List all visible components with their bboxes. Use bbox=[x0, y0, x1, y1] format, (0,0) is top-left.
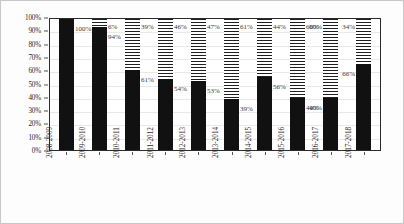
x-tick-column: 2011-2012 bbox=[158, 152, 173, 224]
bar-segment-hatched: 6% bbox=[92, 19, 107, 27]
bar-column: 61%39% bbox=[224, 19, 239, 150]
y-tick-label: 10% bbox=[28, 134, 41, 142]
x-tick-column: 2010-2011 bbox=[124, 152, 139, 224]
bar-segment-hatched: 60% bbox=[323, 19, 338, 98]
y-tick-label: 80% bbox=[28, 41, 41, 49]
y-tick-label: 100% bbox=[25, 14, 41, 22]
x-tick-column: 2017-2018 bbox=[357, 152, 372, 224]
y-tick-label: 70% bbox=[28, 54, 41, 62]
bar-value-label: 94% bbox=[108, 33, 121, 41]
x-tick-column: 2015-2016 bbox=[290, 152, 305, 224]
bar-segment-hatched: 60% bbox=[290, 19, 305, 98]
bar-value-label: 54% bbox=[174, 85, 187, 93]
bar-value-label: 66% bbox=[342, 70, 355, 78]
x-tick-column: 2013-2014 bbox=[224, 152, 239, 224]
x-tick-mark bbox=[165, 152, 166, 155]
bar-column: 60%40% bbox=[323, 19, 338, 150]
x-tick-column: 2016-2017 bbox=[324, 152, 339, 224]
bar-column: 44%56% bbox=[257, 19, 272, 150]
bar-value-label: 100% bbox=[75, 25, 91, 33]
y-tick-mark bbox=[44, 84, 48, 85]
y-tick-mark bbox=[44, 71, 48, 72]
x-tick-mark bbox=[265, 152, 266, 155]
x-tick-column: 2009-2010 bbox=[91, 152, 106, 224]
y-tick-mark bbox=[44, 44, 48, 45]
y-tick-mark bbox=[44, 124, 48, 125]
x-tick-mark bbox=[66, 152, 67, 155]
bar-value-label: 39% bbox=[141, 23, 154, 31]
bar-segment-solid: 54% bbox=[158, 79, 173, 150]
x-tick-column: 2012-2013 bbox=[191, 152, 206, 224]
bar-segment-solid: 53% bbox=[191, 81, 206, 150]
x-tick-label: 2010-2011 bbox=[113, 127, 121, 158]
bar-segment-hatched: 46% bbox=[158, 19, 173, 79]
bar-column: 47%53% bbox=[191, 19, 206, 150]
x-tick-mark bbox=[298, 152, 299, 155]
x-tick-label: 2011-2012 bbox=[146, 127, 154, 158]
x-tick-label: 2009-2010 bbox=[80, 127, 88, 158]
bar-segment-hatched: 61% bbox=[224, 19, 239, 99]
bar-segment-hatched: 39% bbox=[125, 19, 140, 70]
y-tick-mark bbox=[44, 57, 48, 58]
bar-value-label: 60% bbox=[309, 23, 322, 31]
x-tick-column: 2008-2009 bbox=[58, 152, 73, 224]
bar-column: 39%61% bbox=[125, 19, 140, 150]
bar-value-label: 40% bbox=[309, 104, 322, 112]
bar-column: 60%40% bbox=[290, 19, 305, 150]
bar-value-label: 47% bbox=[207, 23, 220, 31]
x-tick-column: 2014-2015 bbox=[257, 152, 272, 224]
y-tick-label: 60% bbox=[28, 67, 41, 75]
bar-segment-solid: 66% bbox=[356, 64, 371, 150]
bar-segment-hatched: 34% bbox=[356, 19, 371, 64]
x-tick-label: 2016-2017 bbox=[312, 127, 320, 158]
bar-value-label: 44% bbox=[273, 23, 286, 31]
y-tick-label: 30% bbox=[28, 107, 41, 115]
y-tick-mark bbox=[44, 18, 48, 19]
bar-column: 46%54% bbox=[158, 19, 173, 150]
x-tick-label: 2015-2016 bbox=[279, 127, 287, 158]
bar-segment-solid: 100% bbox=[59, 19, 74, 150]
bar-segment-solid: 40% bbox=[323, 98, 338, 150]
x-tick-mark bbox=[198, 152, 199, 155]
y-tick-label: 50% bbox=[28, 81, 41, 89]
x-tick-mark bbox=[232, 152, 233, 155]
bar-segment-hatched: 44% bbox=[257, 19, 272, 77]
bar-value-label: 61% bbox=[240, 23, 253, 31]
bar-value-label: 39% bbox=[240, 105, 253, 113]
y-axis: 0%10%20%30%40%50%60%70%80%90%100% bbox=[1, 18, 49, 151]
x-tick-mark bbox=[132, 152, 133, 155]
bar-value-label: 46% bbox=[174, 23, 187, 31]
bar-column: 34%66% bbox=[356, 19, 371, 150]
x-tick-label: 2017-2018 bbox=[345, 127, 353, 158]
bar-value-label: 6% bbox=[108, 23, 117, 31]
y-tick-mark bbox=[44, 97, 48, 98]
x-tick-label: 2014-2015 bbox=[246, 127, 254, 158]
bar-value-label: 61% bbox=[141, 76, 154, 84]
x-axis: 2008-20092009-20102010-20112011-20122012… bbox=[49, 152, 381, 224]
chart-figure: 0%10%20%30%40%50%60%70%80%90%100% 100%6%… bbox=[0, 0, 404, 224]
x-tick-mark bbox=[364, 152, 365, 155]
bar-segment-solid: 94% bbox=[92, 27, 107, 150]
y-tick-label: 20% bbox=[28, 120, 41, 128]
y-tick-label: 40% bbox=[28, 94, 41, 102]
x-tick-mark bbox=[331, 152, 332, 155]
bar-segment-solid: 56% bbox=[257, 77, 272, 150]
x-tick-label: 2008-2009 bbox=[47, 127, 55, 158]
bar-value-label: 56% bbox=[273, 83, 286, 91]
y-tick-mark bbox=[44, 111, 48, 112]
y-tick-label: 90% bbox=[28, 27, 41, 35]
bar-column: 6%94% bbox=[92, 19, 107, 150]
bar-column: 100% bbox=[59, 19, 74, 150]
bar-segment-solid: 61% bbox=[125, 70, 140, 150]
y-tick-label: 0% bbox=[32, 147, 41, 155]
x-tick-label: 2012-2013 bbox=[179, 127, 187, 158]
bar-value-label: 34% bbox=[342, 23, 355, 31]
y-tick-mark bbox=[44, 31, 48, 32]
bar-segment-hatched: 47% bbox=[191, 19, 206, 81]
bar-segment-solid: 39% bbox=[224, 99, 239, 150]
x-tick-label: 2013-2014 bbox=[212, 127, 220, 158]
bar-segment-solid: 40% bbox=[290, 98, 305, 150]
bar-value-label: 53% bbox=[207, 87, 220, 95]
x-tick-mark bbox=[99, 152, 100, 155]
